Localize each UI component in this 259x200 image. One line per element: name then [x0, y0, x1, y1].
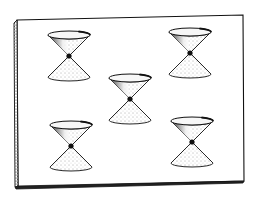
event-point [68, 143, 73, 148]
event-point [189, 139, 194, 144]
light-cone-diagram [0, 0, 259, 200]
slab-left-edge [14, 20, 18, 187]
event-point [187, 50, 192, 55]
event-point [66, 53, 71, 58]
event-point [127, 96, 132, 101]
diagram-canvas [0, 0, 259, 200]
